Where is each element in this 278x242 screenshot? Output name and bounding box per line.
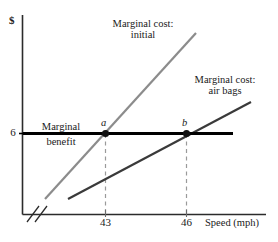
marker-point-a	[102, 130, 109, 137]
mc-airbags-line-1: Marginal cost:	[182, 74, 268, 85]
x-axis-title: Speed (mph)	[205, 217, 259, 228]
curve-marginal-cost-air-bags	[68, 102, 251, 199]
curve-label-marginal-benefit-top: Marginal	[30, 121, 92, 132]
y-tick-label-6: 6	[6, 127, 20, 139]
point-label-a: a	[101, 117, 106, 128]
curve-label-marginal-cost-initial: Marginal cost: initial	[100, 18, 186, 40]
x-tick-label-46: 46	[174, 217, 199, 229]
x-tick-label-43: 43	[93, 217, 118, 229]
curve-marginal-cost-initial	[45, 33, 196, 199]
mc-initial-line-1: Marginal cost:	[100, 18, 186, 29]
marker-point-b	[183, 130, 190, 137]
marginal-cost-benefit-chart: $ 6 43 46 Speed (mph) Marginal cost: ini…	[0, 0, 278, 242]
mc-airbags-line-2: air bags	[182, 85, 268, 96]
mc-initial-line-2: initial	[100, 29, 186, 40]
y-axis-unit-label: $	[9, 15, 15, 27]
point-label-b: b	[182, 117, 187, 128]
curve-label-marginal-cost-air-bags: Marginal cost: air bags	[182, 74, 268, 96]
curve-label-marginal-benefit-bottom: benefit	[30, 136, 92, 147]
